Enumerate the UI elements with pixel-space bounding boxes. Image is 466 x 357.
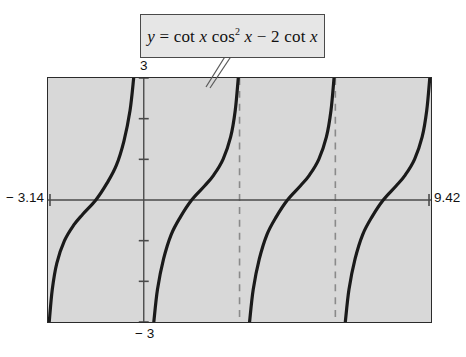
y-min-label: − 3 bbox=[135, 326, 154, 341]
graph-figure: y = cot x cos2 x − 2 cot x − 3.14 9.42 3… bbox=[0, 0, 466, 357]
x-min-label: − 3.14 bbox=[6, 190, 44, 205]
equation-coefficient: 2 bbox=[271, 26, 280, 45]
equation-callout-box: y = cot x cos2 x − 2 cot x bbox=[140, 14, 325, 58]
equation-x-3: x bbox=[310, 26, 318, 45]
equation-cot-2: cot bbox=[284, 26, 305, 45]
y-max-label: 3 bbox=[140, 58, 148, 73]
equation-cot-1: cot bbox=[174, 26, 195, 45]
equation-minus: − bbox=[257, 26, 267, 45]
equation-text: y = cot x cos2 x − 2 cot x bbox=[147, 26, 318, 47]
equation-cos: cos bbox=[212, 26, 235, 45]
equation-equals: = bbox=[159, 26, 169, 45]
plot-area bbox=[47, 77, 432, 323]
x-max-label: 9.42 bbox=[434, 190, 460, 205]
equation-lhs: y bbox=[147, 26, 155, 45]
plot-canvas bbox=[48, 78, 431, 322]
equation-x-2: x bbox=[245, 26, 253, 45]
